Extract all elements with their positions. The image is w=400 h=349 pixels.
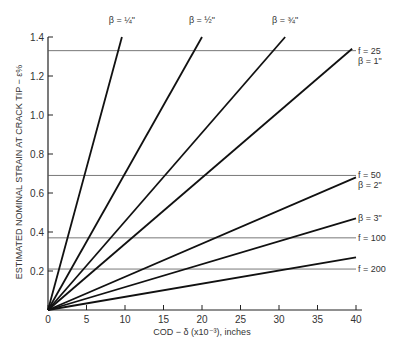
x-tick-label: 40 (350, 314, 362, 325)
reference-line-label: f = 25 (358, 46, 381, 56)
x-tick-label: 15 (158, 314, 170, 325)
y-tick-label: 0.2 (30, 266, 44, 277)
reference-line-label: f = 200 (358, 264, 386, 274)
series-line (48, 218, 356, 310)
reference-lines: f = 25f = 50f = 100f = 200 (48, 46, 386, 274)
x-tick-label: 25 (235, 314, 247, 325)
series-label: β = 3" (358, 213, 382, 223)
series-label: β = ¼" (109, 15, 135, 25)
x-tick-label: 20 (196, 314, 208, 325)
y-tick-label: 1.4 (30, 32, 44, 43)
axes: 05101520253035400.20.40.60.81.01.21.4 (30, 32, 362, 326)
chart: 05101520253035400.20.40.60.81.01.21.4 f … (0, 0, 400, 349)
y-tick-label: 1.2 (30, 71, 44, 82)
y-tick-label: 1.0 (30, 110, 44, 121)
x-tick-label: 35 (312, 314, 324, 325)
series-label: β = ¾" (272, 15, 298, 25)
series-line (48, 257, 356, 310)
y-tick-label: 0.8 (30, 149, 44, 160)
y-tick-label: 0.4 (30, 227, 44, 238)
x-axis-label: COD − δ (x10⁻³), inches (153, 327, 251, 337)
y-tick-label: 0.6 (30, 188, 44, 199)
x-tick-label: 10 (119, 314, 131, 325)
series-label: β = 1" (358, 56, 382, 66)
series-line (48, 177, 356, 310)
series-label: β = 2" (358, 180, 382, 190)
y-axis-label: ESTIMATED NOMINAL STRAIN AT CRACK TIP − … (14, 65, 24, 280)
x-tick-label: 5 (84, 314, 90, 325)
series-line (48, 49, 352, 310)
reference-line-label: f = 50 (358, 170, 381, 180)
series-label: β = ½" (189, 15, 215, 25)
x-tick-label: 30 (273, 314, 285, 325)
x-tick-label: 0 (45, 314, 51, 325)
reference-line-label: f = 100 (358, 233, 386, 243)
